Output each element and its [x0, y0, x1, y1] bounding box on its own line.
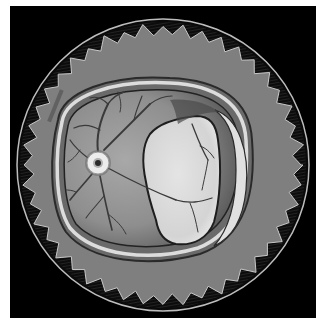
retina: [52, 77, 253, 261]
optic-disc: [85, 150, 111, 176]
retina-illustration: [0, 0, 326, 330]
